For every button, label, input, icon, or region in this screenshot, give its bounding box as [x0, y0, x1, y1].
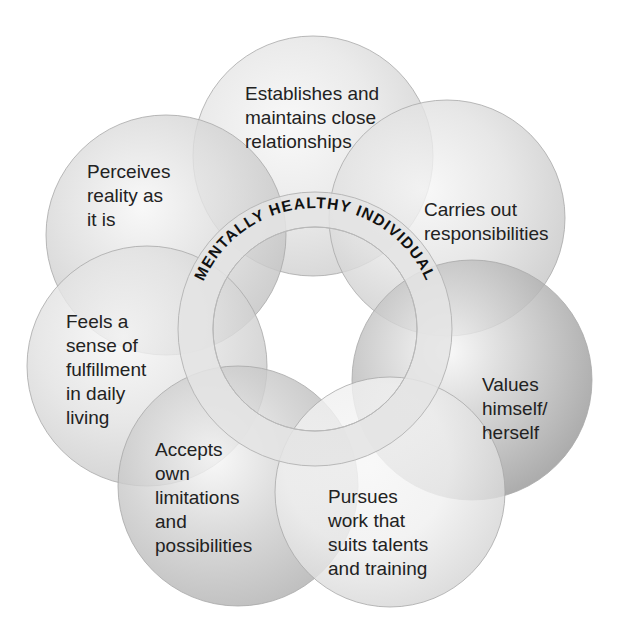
label-limitations: Accepts own limitations and possibilitie… — [155, 438, 252, 558]
label-responsibilities: Carries out responsibilities — [424, 198, 549, 246]
label-relationships: Establishes and maintains close relation… — [245, 82, 379, 154]
label-work: Pursues work that suits talents and trai… — [328, 485, 428, 581]
label-fulfillment: Feels a sense of fulfillment in daily li… — [66, 310, 146, 430]
label-perceives: Perceives reality as it is — [87, 160, 170, 232]
label-values: Values himself/ herself — [482, 373, 547, 445]
